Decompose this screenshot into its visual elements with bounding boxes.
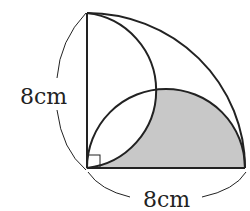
shaded-region <box>87 13 247 170</box>
dimension-arc-bottom-right <box>202 172 246 197</box>
dimension-arc-left-bottom <box>57 110 86 170</box>
dimension-arc-left-top <box>57 13 86 78</box>
geometry-diagram: 8cm 8cm <box>0 0 250 211</box>
horizontal-length-label: 8cm <box>143 187 190 211</box>
vertical-length-label: 8cm <box>20 84 67 109</box>
dimension-arc-bottom-left <box>88 172 130 197</box>
